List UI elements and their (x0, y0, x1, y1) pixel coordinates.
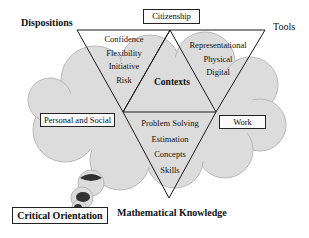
knowledge-item: Concepts (131, 150, 209, 159)
tool-item: Representational (181, 41, 255, 50)
disposition-item: Confidence (95, 35, 153, 44)
knowledge-item: Problem Solving (131, 119, 209, 128)
tools-label: Tools (273, 22, 295, 32)
work-box: Work (219, 115, 266, 129)
citizenship-box: Citizenship (143, 9, 200, 24)
dispositions-list: Confidence Flexibility Initiative Risk (95, 35, 153, 84)
knowledge-item: Skills (131, 166, 209, 175)
mathematical-knowledge-list: Problem Solving Estimation Concepts Skil… (131, 119, 209, 174)
tool-item: Physical (181, 55, 255, 64)
disposition-item: Risk (95, 76, 153, 85)
dispositions-label: Dispositions (21, 18, 73, 28)
knowledge-item: Estimation (131, 135, 209, 144)
personal-social-box: Personal and Social (40, 113, 115, 127)
contexts-label: Contexts (154, 78, 190, 88)
tool-item: Digital (181, 68, 255, 77)
critical-orientation-box: Critical Orientation (12, 207, 108, 224)
mathematical-knowledge-label: Mathematical Knowledge (117, 208, 227, 218)
disposition-item: Flexibility (95, 49, 153, 58)
disposition-item: Initiative (95, 62, 153, 71)
tools-list: Representational Physical Digital (181, 41, 255, 77)
